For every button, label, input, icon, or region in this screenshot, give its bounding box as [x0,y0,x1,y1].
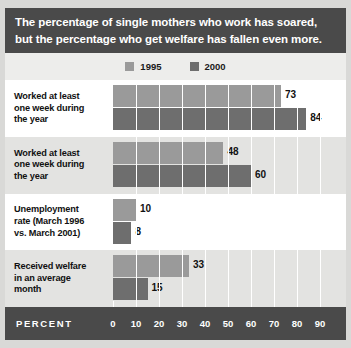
bar-value-2000: 8 [135,226,141,237]
bar-group: 73 84 [108,80,346,137]
chart-title-line-2: but the percentage who get welfare has f… [15,31,336,48]
legend-label-2000: 2000 [205,61,226,72]
bar-value-1995: 10 [140,203,151,214]
legend-item-2000: 2000 [190,61,226,72]
chart-row: Worked at least one week during the year… [5,80,346,137]
row-label: Worked at least one week during the year [14,80,108,137]
figure-panel: The percentage of single mothers who wor… [5,8,346,340]
bar-2000 [113,222,131,244]
axis-tick-label: 80 [287,318,307,329]
axis-tick-label: 20 [149,318,169,329]
bar-group: 10 8 [108,194,346,251]
row-label-line: one week during [14,103,108,115]
chart-title-line-1: The percentage of single mothers who wor… [15,14,336,31]
axis-title: PERCENT [16,318,73,329]
bar-2000 [113,278,148,300]
bar-2000 [113,108,306,130]
axis-tick-label: 90 [310,318,330,329]
bar-1995 [113,199,136,221]
axis-tick-label: 10 [126,318,146,329]
bar-1995 [113,255,189,277]
row-label: Unemployment rate (March 1996 vs. March … [14,194,108,251]
chart-header: The percentage of single mothers who wor… [5,8,346,53]
row-label-line: Unemployment [14,204,108,216]
axis-tick-label: 30 [172,318,192,329]
bar-1995 [113,85,281,107]
row-label-line: Received welfare [14,261,108,273]
bar-2000 [113,165,251,187]
axis-bar: PERCENT 0102030405060708090 [5,307,346,340]
bar-value-1995: 48 [227,146,238,157]
chart-row: Received welfare in an average month 33 … [5,250,346,307]
axis-tick-label: 60 [241,318,261,329]
bar-group: 48 60 [108,137,346,194]
plot-area: Worked at least one week during the year… [5,80,346,307]
row-label-line: the year [14,114,108,126]
bar-value-1995: 33 [193,259,204,270]
bar-value-2000: 15 [152,282,163,293]
row-label: Received welfare in an average month [14,250,108,307]
axis-tick-label: 70 [264,318,284,329]
chart-legend: 1995 2000 [5,53,346,80]
legend-item-1995: 1995 [125,61,161,72]
chart-row: Worked at least one week during the year… [5,137,346,194]
bar-1995 [113,142,223,164]
row-label-line: Worked at least [14,148,108,160]
legend-label-1995: 1995 [140,61,161,72]
row-label-line: one week during [14,159,108,171]
chart-row: Unemployment rate (March 1996 vs. March … [5,194,346,251]
axis-tick-label: 50 [218,318,238,329]
row-label-line: rate (March 1996 [14,216,108,228]
row-label-line: the year [14,171,108,183]
row-label-line: vs. March 2001) [14,228,108,240]
bar-group: 33 15 [108,250,346,307]
bar-value-2000: 60 [255,169,266,180]
legend-swatch-2000-icon [190,62,199,71]
row-label-line: Worked at least [14,91,108,103]
bar-value-1995: 73 [285,89,296,100]
row-label-line: month [14,284,108,296]
row-label: Worked at least one week during the year [14,137,108,194]
axis-tick-label: 40 [195,318,215,329]
row-label-line: in an average [14,273,108,285]
legend-swatch-1995-icon [125,62,134,71]
bar-value-2000: 84 [310,112,321,123]
chart-figure: The percentage of single mothers who wor… [0,0,351,348]
axis-tick-label: 0 [103,318,123,329]
